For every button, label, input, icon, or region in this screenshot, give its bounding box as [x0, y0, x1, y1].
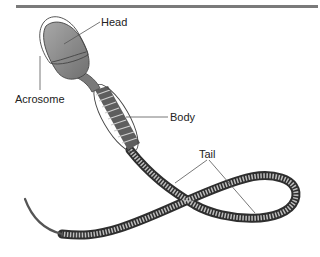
- label-body: Body: [170, 111, 195, 123]
- label-head: Head: [101, 16, 127, 28]
- label-tail: Tail: [199, 148, 216, 160]
- label-acrosome: Acrosome: [15, 93, 65, 105]
- head: [40, 17, 89, 79]
- tail-leader-1: [175, 160, 207, 183]
- sperm-diagram: [0, 0, 320, 257]
- tail: [25, 150, 296, 235]
